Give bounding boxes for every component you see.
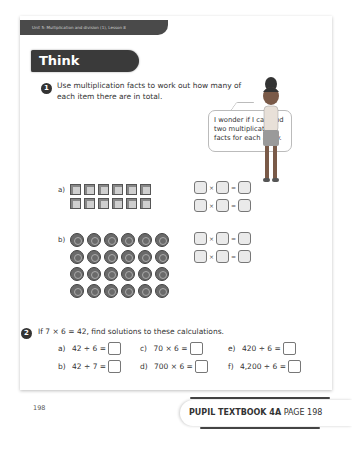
counter-icon: [155, 233, 169, 247]
counter-icon: [70, 284, 84, 298]
cube-icon: [84, 184, 95, 195]
cube-icon: [98, 198, 109, 209]
question-1-text: Use multiplication facts to work out how…: [57, 80, 247, 102]
counter-icon: [155, 267, 169, 281]
answer-box[interactable]: [216, 181, 229, 194]
unit-header-band: Unit 5: Multiplication and division (1),…: [20, 20, 168, 35]
calculation-c: c) 70 × 6 =: [140, 342, 203, 355]
answer-box[interactable]: [194, 181, 207, 194]
answer-box[interactable]: [108, 342, 121, 355]
cube-icon: [112, 184, 123, 195]
character-girl-illustration: [254, 74, 288, 194]
cube-icon: [84, 198, 95, 209]
counter-icon: [138, 284, 152, 298]
cube-icon: [70, 184, 81, 195]
cube-icon: [70, 198, 81, 209]
counter-icon: [138, 233, 152, 247]
calculation-e: e) 420 ÷ 6 =: [228, 342, 296, 355]
cube-icon: [126, 198, 137, 209]
part-b-label: b): [58, 236, 65, 244]
counter-icon: [87, 284, 101, 298]
counter-icon: [138, 267, 152, 281]
counter-array: [70, 233, 169, 298]
counter-icon: [87, 250, 101, 264]
equation-b1: ×=: [194, 232, 251, 245]
question-1-number-badge: 1: [41, 83, 52, 94]
counter-icon: [70, 267, 84, 281]
counter-icon: [104, 267, 118, 281]
answer-box[interactable]: [108, 360, 121, 373]
answer-box[interactable]: [216, 232, 229, 245]
answer-box[interactable]: [194, 250, 207, 263]
counter-icon: [87, 267, 101, 281]
counter-icon: [104, 250, 118, 264]
answer-box[interactable]: [194, 232, 207, 245]
cube-icon: [140, 198, 151, 209]
answer-box[interactable]: [216, 199, 229, 212]
counter-icon: [121, 267, 135, 281]
part-a-label: a): [58, 186, 65, 194]
counter-icon: [104, 233, 118, 247]
cube-icon: [98, 184, 109, 195]
answer-box[interactable]: [238, 250, 251, 263]
calculation-f: f) 4,200 ÷ 6 =: [228, 360, 301, 373]
footer-page-label: PAGE 198: [284, 408, 323, 417]
answer-box[interactable]: [190, 342, 203, 355]
counter-icon: [121, 284, 135, 298]
cube-icon: [126, 184, 137, 195]
answer-box[interactable]: [238, 199, 251, 212]
counter-icon: [70, 250, 84, 264]
equation-b2: ×=: [194, 250, 251, 263]
answer-box[interactable]: [216, 250, 229, 263]
calculation-d: d) 700 × 6 =: [140, 360, 208, 373]
counter-icon: [121, 250, 135, 264]
answer-box[interactable]: [238, 232, 251, 245]
counter-icon: [104, 284, 118, 298]
page-number: 198: [33, 404, 45, 412]
counter-icon: [155, 284, 169, 298]
cube-array: [70, 184, 151, 209]
question-2-number-badge: 2: [21, 328, 32, 339]
calculation-b: b) 42 ÷ 7 =: [58, 360, 121, 373]
section-title: Think together: [31, 50, 139, 72]
footer-book-title: PUPIL TEXTBOOK 4A: [189, 408, 281, 417]
cube-icon: [112, 198, 123, 209]
footer-badge: PUPIL TEXTBOOK 4A PAGE 198: [180, 400, 352, 426]
counter-icon: [70, 233, 84, 247]
calculation-a: a) 42 ÷ 6 =: [58, 342, 121, 355]
counter-icon: [121, 233, 135, 247]
answer-box[interactable]: [238, 181, 251, 194]
question-2-text: If 7 × 6 = 42, find solutions to these c…: [38, 327, 224, 336]
cube-icon: [140, 184, 151, 195]
equation-a1: ×=: [194, 181, 251, 194]
answer-box[interactable]: [288, 360, 301, 373]
answer-box[interactable]: [195, 360, 208, 373]
equation-a2: ×=: [194, 199, 251, 212]
counter-icon: [87, 233, 101, 247]
counter-icon: [138, 250, 152, 264]
counter-icon: [155, 250, 169, 264]
footer-shadow-line: [200, 427, 320, 429]
answer-box[interactable]: [194, 199, 207, 212]
footer-shadow-line: [190, 397, 330, 399]
answer-box[interactable]: [283, 342, 296, 355]
